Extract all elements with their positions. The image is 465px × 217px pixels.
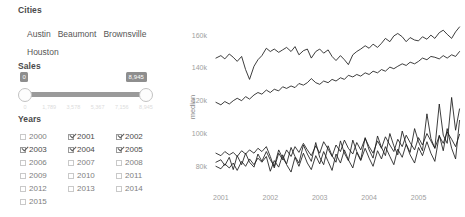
checkbox-checked-icon[interactable] bbox=[68, 134, 74, 140]
x-tick-label: 2001 bbox=[213, 194, 229, 201]
y-tick-label: 160k bbox=[192, 32, 208, 39]
checkbox-empty-icon[interactable] bbox=[116, 173, 122, 179]
slider-track[interactable] bbox=[25, 92, 146, 97]
series-line bbox=[216, 27, 460, 79]
year-checkbox-2001[interactable]: 2001 bbox=[68, 132, 116, 141]
slider-tick-label: 3,578 bbox=[67, 104, 81, 110]
year-label: 2006 bbox=[29, 158, 47, 167]
checkbox-empty-icon[interactable] bbox=[116, 186, 122, 192]
year-checkbox-2015[interactable]: 2015 bbox=[20, 197, 68, 206]
x-tick-label: 2005 bbox=[411, 194, 427, 201]
year-label: 2010 bbox=[77, 171, 95, 180]
year-checkbox-2012[interactable]: 2012 bbox=[20, 184, 68, 193]
x-tick-label: 2003 bbox=[312, 194, 328, 201]
year-checkbox-2011[interactable]: 2011 bbox=[116, 171, 164, 180]
slider-tick-label: 7,156 bbox=[115, 104, 129, 110]
city-item[interactable]: Austin bbox=[27, 27, 51, 42]
y-tick-label: 100k bbox=[192, 130, 208, 137]
checkbox-empty-icon[interactable] bbox=[68, 186, 74, 192]
city-item[interactable]: Beaumont bbox=[58, 27, 97, 42]
year-label: 2014 bbox=[125, 184, 143, 193]
sales-filter-group: Sales 0 8,945 01,7893,5785,3677,1568,945 bbox=[18, 61, 168, 113]
cities-section-title: Cities bbox=[18, 5, 168, 15]
slider-tick-labels: 01,7893,5785,3677,1568,945 bbox=[18, 104, 153, 114]
year-label: 2004 bbox=[77, 145, 95, 154]
checkbox-checked-icon[interactable] bbox=[116, 147, 122, 153]
checkbox-empty-icon[interactable] bbox=[20, 173, 26, 179]
checkbox-empty-icon[interactable] bbox=[20, 199, 26, 205]
slider-value-max: 8,945 bbox=[126, 72, 147, 82]
city-item[interactable]: Houston bbox=[27, 45, 59, 60]
year-label: 2013 bbox=[77, 184, 95, 193]
slider-tick-label: 1,789 bbox=[42, 104, 56, 110]
y-axis-title: median bbox=[188, 95, 197, 120]
year-checkbox-2000[interactable]: 2000 bbox=[20, 132, 68, 141]
year-label: 2005 bbox=[125, 145, 143, 154]
year-label: 2012 bbox=[29, 184, 47, 193]
slider-handle-min[interactable] bbox=[18, 88, 32, 102]
slider-value-min: 0 bbox=[20, 72, 28, 82]
checkbox-empty-icon[interactable] bbox=[20, 160, 26, 166]
year-label: 2015 bbox=[29, 197, 47, 206]
year-checkbox-2013[interactable]: 2013 bbox=[68, 184, 116, 193]
years-checkbox-grid: 2000200120022003200420052006200720082009… bbox=[18, 132, 170, 206]
series-line bbox=[216, 52, 460, 105]
checkbox-empty-icon[interactable] bbox=[68, 160, 74, 166]
y-tick-label: 140k bbox=[192, 64, 208, 71]
checkbox-empty-icon[interactable] bbox=[20, 186, 26, 192]
cities-filter-group: Cities AustinBeaumontBrownsvilleHouston bbox=[18, 5, 168, 60]
year-checkbox-2005[interactable]: 2005 bbox=[116, 145, 164, 154]
series-lines bbox=[216, 27, 460, 172]
year-checkbox-2002[interactable]: 2002 bbox=[116, 132, 164, 141]
year-checkbox-2006[interactable]: 2006 bbox=[20, 158, 68, 167]
y-tick-label: 80k bbox=[196, 163, 208, 170]
year-checkbox-2004[interactable]: 2004 bbox=[68, 145, 116, 154]
controls-panel: Cities AustinBeaumontBrownsvilleHouston … bbox=[0, 0, 175, 217]
year-checkbox-2003[interactable]: 2003 bbox=[20, 145, 68, 154]
year-label: 2007 bbox=[77, 158, 95, 167]
year-label: 2001 bbox=[77, 132, 95, 141]
slider-tick-label: 5,367 bbox=[91, 104, 105, 110]
year-checkbox-2014[interactable]: 2014 bbox=[116, 184, 164, 193]
years-section-title: Years bbox=[18, 114, 170, 124]
checkbox-empty-icon[interactable] bbox=[20, 134, 26, 140]
checkbox-empty-icon[interactable] bbox=[116, 160, 122, 166]
checkbox-checked-icon[interactable] bbox=[68, 147, 74, 153]
year-label: 2009 bbox=[29, 171, 47, 180]
city-item[interactable]: Brownsville bbox=[103, 27, 146, 42]
year-checkbox-2008[interactable]: 2008 bbox=[116, 158, 164, 167]
year-checkbox-2007[interactable]: 2007 bbox=[68, 158, 116, 167]
x-axis-labels: 20012002200320042005 bbox=[213, 194, 426, 201]
checkbox-checked-icon[interactable] bbox=[116, 134, 122, 140]
app-root: Cities AustinBeaumontBrownsvilleHouston … bbox=[0, 0, 465, 217]
year-checkbox-2010[interactable]: 2010 bbox=[68, 171, 116, 180]
slider-tick-label: 8,945 bbox=[139, 104, 153, 110]
series-line bbox=[216, 97, 460, 169]
years-filter-group: Years 2000200120022003200420052006200720… bbox=[18, 114, 170, 206]
year-label: 2002 bbox=[125, 132, 143, 141]
year-label: 2000 bbox=[29, 132, 47, 141]
x-tick-label: 2004 bbox=[361, 194, 377, 201]
year-label: 2011 bbox=[125, 171, 142, 180]
slider-handle-max[interactable] bbox=[139, 88, 153, 102]
checkbox-empty-icon[interactable] bbox=[68, 173, 74, 179]
year-label: 2008 bbox=[125, 158, 143, 167]
checkbox-checked-icon[interactable] bbox=[20, 147, 26, 153]
median-price-line-chart: 160k140k120k100k80k 20012002200320042005… bbox=[175, 0, 465, 217]
sales-section-title: Sales bbox=[18, 61, 168, 71]
slider-tick-label: 0 bbox=[23, 104, 26, 110]
year-checkbox-2009[interactable]: 2009 bbox=[20, 171, 68, 180]
cities-list: AustinBeaumontBrownsvilleHouston bbox=[18, 24, 169, 60]
x-tick-label: 2002 bbox=[263, 194, 279, 201]
sales-range-slider[interactable]: 0 8,945 01,7893,5785,3677,1568,945 bbox=[18, 79, 153, 113]
year-label: 2003 bbox=[29, 145, 47, 154]
chart-panel: 160k140k120k100k80k 20012002200320042005… bbox=[175, 0, 465, 217]
